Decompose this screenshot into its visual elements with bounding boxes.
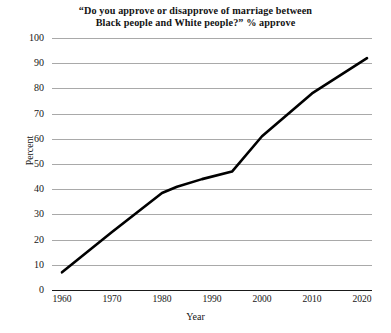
y-tick-label-80: 80 — [4, 82, 44, 93]
y-tick-label-10: 10 — [4, 259, 44, 270]
y-tick-label-70: 70 — [4, 108, 44, 119]
y-tick-label-90: 90 — [4, 57, 44, 68]
data-series-layer — [0, 0, 391, 333]
y-tick-label-40: 40 — [4, 183, 44, 194]
y-tick-label-20: 20 — [4, 234, 44, 245]
x-tick-label-2020: 2020 — [332, 293, 391, 304]
line-series-approve — [62, 58, 367, 272]
y-tick-label-30: 30 — [4, 208, 44, 219]
y-tick-label-60: 60 — [4, 133, 44, 144]
y-tick-label-100: 100 — [4, 32, 44, 43]
chart-container: “Do you approve or disapprove of marriag… — [0, 0, 391, 333]
y-tick-label-50: 50 — [4, 158, 44, 169]
